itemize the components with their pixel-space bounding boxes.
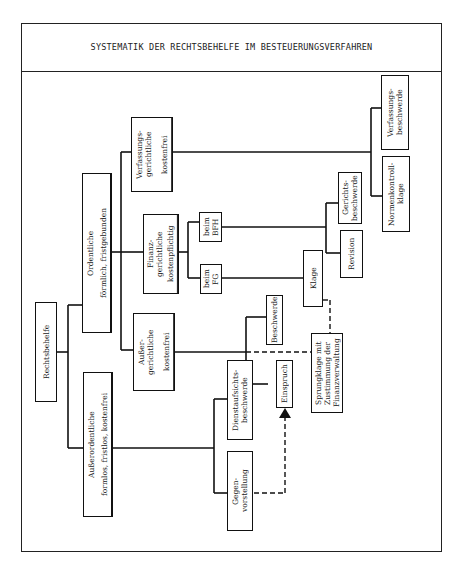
node-ordentliche: Ordentliche förmlich, fristgebunden [82,173,112,333]
node-beim-bfh: beim BFH [199,212,222,242]
node-einspruch: Einspruch [276,360,293,408]
node-klage: Klage [303,250,323,307]
node-finanzgerichtliche: Finanz- gerichtliche kostenpflichtig [143,214,179,294]
node-beim-fg: beim FG [200,264,222,294]
arrow-head-icon [279,408,291,418]
node-verfassungsgerichtliche: Verfassungs- gerichtliche kostenfrei [131,117,173,192]
node-ausserordentliche: Außerordentliche formlos, fristlos, kost… [83,372,113,517]
node-gegenvorstellung: Gegen- vorstellung [227,451,253,531]
node-normenkontrollklage: Normenkontroll- klage [382,156,410,232]
node-sprungklage: Sprungklage mit Zustimmung der Finanzver… [311,333,343,413]
node-dienstaufsichtsbeschwerde: Dienstaufsichts- beschwerde [227,360,253,440]
node-rechtsbehelfe: Rechtsbehelfe [35,302,57,402]
node-gerichtsbeschwerde: Gerichts- beschwerde [338,172,362,224]
node-beschwerde: Beschwerde [266,295,283,345]
node-verfassungsbeschwerde: Verfassungs- beschwerde [381,75,409,150]
node-revision: Revision [340,230,363,278]
node-aussergerichtliche: Außer- gerichtliche kostenfrei [133,313,175,391]
